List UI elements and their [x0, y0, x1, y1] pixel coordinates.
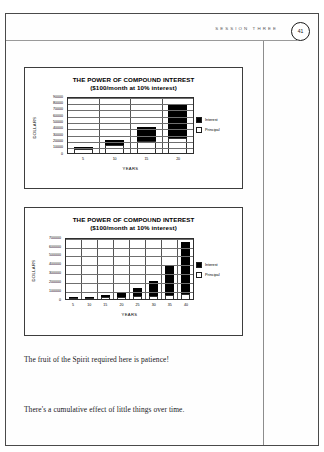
chart-1-plot-area: [67, 97, 194, 154]
chart-2-x-tick: 10: [81, 303, 97, 307]
chart-2-gridline: [66, 283, 193, 284]
chart-2-gridline: [66, 274, 193, 275]
body-paragraph-1: The fruit of the Spirit required here is…: [24, 355, 249, 364]
chart-1-y-tick: 10000: [53, 145, 63, 149]
chart-figure-1: THE POWER OF COMPOUND INTEREST ($100/mon…: [24, 67, 243, 189]
chart-2-bar: [181, 242, 190, 298]
chart-2-y-ticks: 7000006000005000004000003000002000001000…: [33, 238, 63, 326]
chart-2-y-tick: 600000: [49, 245, 61, 249]
chart-2-plot-area: [65, 238, 194, 300]
chart-2-bar: [101, 295, 110, 299]
chart-2-gridline: [66, 292, 193, 293]
header-rule: [6, 40, 297, 41]
chart-1-x-tick: 5: [67, 157, 99, 161]
page-number-badge: 41: [291, 22, 310, 41]
chart-1-y-tick: 60000: [53, 114, 63, 118]
chart-2-y-tick: 300000: [49, 271, 61, 275]
chart-1-subtitle: ($100/month at 10% interest): [25, 84, 242, 92]
chart-2-legend: InterestPrincipal: [196, 262, 240, 282]
chart-1-legend: InterestPrincipal: [196, 117, 240, 137]
chart-1-bars: [68, 98, 193, 153]
chart-1-gridline: [68, 129, 193, 130]
chart-1-gridline: [68, 117, 193, 118]
chart-1-gridline: [68, 142, 193, 143]
chart-2-y-tick: 100000: [49, 289, 61, 293]
chart-2-bar-segment-interest: [181, 242, 190, 294]
chart-2-gridline: [66, 248, 193, 249]
chart-1-x-ticks: 5101520: [67, 157, 194, 161]
chart-1-bar-slot: [68, 98, 100, 153]
legend-swatch-principal: [196, 127, 202, 133]
chart-2-legend-item: Interest: [196, 262, 240, 268]
chart-2-subtitle: ($100/month at 10% interest): [25, 224, 242, 232]
body-paragraph-2: There's a cumulative effect of little th…: [24, 405, 249, 414]
chart-2-gridline: [66, 265, 193, 266]
chart-2-bar: [117, 292, 126, 299]
chart-1-plot: DOLLARS 90000800007000060000500004000030…: [25, 97, 242, 179]
running-head: SESSION THREE 41: [6, 14, 318, 41]
page-number: 41: [298, 29, 304, 34]
legend-swatch-principal: [196, 272, 202, 278]
chart-2-bar-segment-principal: [149, 296, 158, 299]
chart-2-x-tick: 25: [130, 303, 146, 307]
chart-1-y-tick: 50000: [53, 120, 63, 124]
chart-1-bar-segment-principal: [74, 149, 93, 153]
chart-1-gridline: [68, 98, 193, 99]
chart-2-bar: [69, 297, 78, 298]
chart-1-gridline: [68, 136, 193, 137]
chart-1-bar-segment-principal: [168, 138, 187, 153]
chart-2-x-tick: 30: [146, 303, 162, 307]
chart-2-y-tick: 0: [59, 298, 61, 302]
chart-1-x-tick: 20: [162, 157, 194, 161]
chart-1-gridline: [68, 148, 193, 149]
chart-2-bar-segment-principal: [101, 297, 110, 299]
chart-2-y-tick: 700000: [49, 236, 61, 240]
chart-1-x-axis-label: YEARS: [67, 166, 194, 171]
chart-1-y-tick: 0: [61, 152, 63, 156]
chart-1-y-ticks: 9000080000700006000050000400003000020000…: [35, 97, 65, 179]
chart-1-y-tick: 70000: [53, 107, 63, 111]
document-page: SESSION THREE 41 THE POWER OF COMPOUND I…: [5, 13, 319, 446]
chart-1-bar-slot: [131, 98, 163, 153]
chart-2-bar: [85, 297, 94, 299]
legend-label-principal: Principal: [205, 273, 220, 277]
chart-1-title: THE POWER OF COMPOUND INTEREST: [25, 76, 242, 84]
chart-1-y-tick: 80000: [53, 101, 63, 105]
chart-2-x-axis-label: YEARS: [65, 312, 194, 317]
chart-2-x-ticks: 510152025303540: [65, 303, 194, 307]
chart-2-bar-segment-interest: [165, 265, 174, 295]
chart-2-y-tick: 200000: [49, 280, 61, 284]
chart-2-x-tick: 35: [162, 303, 178, 307]
chart-1-gridline: [68, 110, 193, 111]
chart-1-y-tick: 90000: [53, 95, 63, 99]
session-label: SESSION THREE: [215, 26, 278, 31]
legend-swatch-interest: [196, 117, 202, 123]
chart-2-gridline: [66, 239, 193, 240]
chart-2-bar-segment-principal: [69, 298, 78, 299]
chart-2-x-tick: 5: [65, 303, 81, 307]
margin-rule: [263, 41, 264, 445]
chart-2-bar: [133, 288, 142, 299]
chart-figure-2: THE POWER OF COMPOUND INTEREST ($100/mon…: [24, 207, 243, 336]
chart-1-legend-item: Interest: [196, 117, 240, 123]
chart-2-x-tick: 20: [113, 303, 129, 307]
chart-1-y-tick: 20000: [53, 139, 63, 143]
chart-2-gridline: [66, 256, 193, 257]
chart-1-legend-item: Principal: [196, 127, 240, 133]
chart-1-bar-slot: [100, 98, 132, 153]
chart-1-x-tick: 15: [131, 157, 163, 161]
chart-2-bar-segment-principal: [133, 296, 142, 299]
chart-2-bar: [165, 265, 174, 299]
chart-2-x-tick: 40: [178, 303, 194, 307]
chart-1-x-tick: 10: [99, 157, 131, 161]
chart-2-y-tick: 500000: [49, 253, 61, 257]
legend-label-interest: Interest: [205, 118, 218, 122]
chart-2-bar-segment-principal: [117, 297, 126, 299]
chart-2-plot: DOLLARS 70000060000050000040000030000020…: [25, 238, 242, 326]
chart-2-legend-item: Principal: [196, 272, 240, 278]
chart-1-gridline: [68, 104, 193, 105]
chart-2-title: THE POWER OF COMPOUND INTEREST: [25, 216, 242, 224]
chart-2-bar-segment-principal: [181, 294, 190, 298]
chart-1-y-tick: 40000: [53, 126, 63, 130]
chart-2-x-tick: 15: [97, 303, 113, 307]
